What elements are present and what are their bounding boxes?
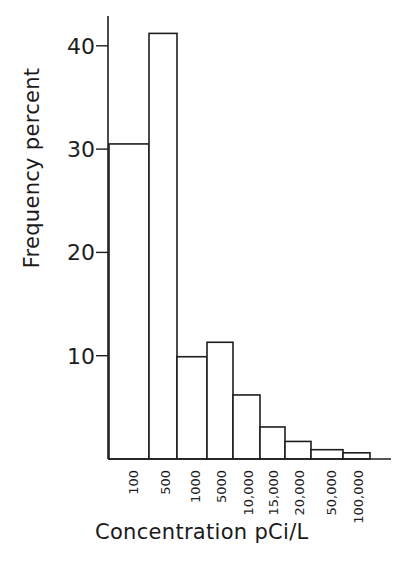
histogram-bar [207, 342, 233, 459]
histogram-bar [109, 144, 149, 459]
histogram-chart: 10203040 1005001000500010,00015,00020,00… [0, 0, 413, 567]
histogram-bar [343, 453, 370, 459]
x-axis-label: Concentration pCi/L [95, 520, 309, 544]
x-tick-label: 15,000 [266, 470, 281, 516]
x-tick-label: 50,000 [324, 470, 339, 516]
x-tick-label: 20,000 [292, 470, 307, 516]
histogram-bar [285, 441, 311, 459]
x-tick-label: 10,000 [241, 470, 256, 516]
x-tick-label: 100,000 [351, 470, 366, 524]
y-tick-label: 30 [67, 137, 95, 162]
histogram-bar [177, 357, 207, 459]
y-tick-label: 20 [67, 240, 95, 265]
x-tick-labels: 1005001000500010,00015,00020,00050,00010… [126, 470, 366, 524]
bars [109, 33, 370, 459]
y-ticks: 10203040 [67, 34, 108, 369]
histogram-bar [149, 33, 177, 459]
histogram-bar [233, 395, 260, 459]
y-axis-label: Frequency percent [20, 68, 44, 269]
y-tick-label: 40 [67, 34, 95, 59]
x-tick-label: 500 [158, 470, 173, 495]
histogram-bar [311, 450, 343, 459]
x-tick-label: 1000 [188, 470, 203, 503]
histogram-bar [260, 427, 285, 459]
x-tick-label: 5000 [214, 470, 229, 503]
x-tick-label: 100 [126, 470, 141, 495]
y-tick-label: 10 [67, 344, 95, 369]
